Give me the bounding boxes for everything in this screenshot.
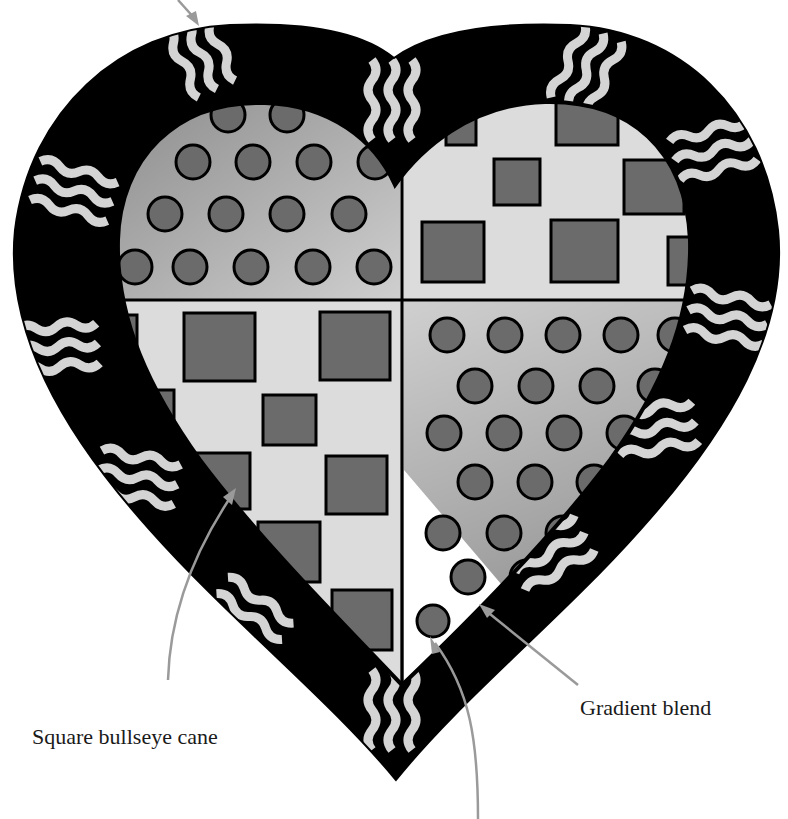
arrowhead-icon — [186, 11, 199, 26]
label-square-bullseye-cane: Square bullseye cane — [32, 724, 218, 750]
wave-stripes-icon — [16, 319, 100, 374]
label-gradient-blend: Gradient blend — [580, 695, 711, 721]
